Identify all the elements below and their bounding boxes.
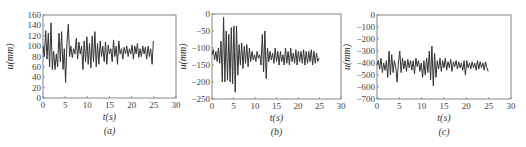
y-tick-label: −300 — [356, 46, 375, 56]
x-tick-label: 25 — [484, 101, 494, 111]
data-series-line — [212, 17, 319, 92]
x-tick-label: 0 — [375, 101, 380, 111]
y-axis-label: u(mm) — [341, 43, 353, 70]
y-tick-label: −150 — [191, 60, 210, 70]
x-tick-label: 15 — [440, 101, 450, 111]
x-axis-label: t(s) — [103, 111, 117, 123]
chart-panel-a: 051015202530020406080100120140160t(s)u(m… — [4, 10, 181, 137]
x-axis-label: t(s) — [437, 112, 451, 124]
y-tick-label: −100 — [191, 43, 210, 53]
data-series-line — [43, 23, 153, 83]
y-tick-label: 140 — [28, 20, 42, 30]
y-tick-label: 40 — [32, 72, 42, 82]
y-axis-label: u(mm) — [4, 43, 16, 70]
y-tick-label: 0 — [206, 9, 211, 19]
y-tick-label: 100 — [28, 41, 42, 51]
x-tick-label: 25 — [149, 100, 159, 110]
x-tick-label: 30 — [507, 101, 517, 111]
y-tick-label: −700 — [356, 94, 375, 104]
x-tick-label: 5 — [397, 101, 402, 111]
panel-caption: (b) — [271, 126, 283, 138]
x-tick-label: 10 — [251, 101, 261, 111]
panel-caption: (c) — [438, 126, 450, 138]
y-tick-label: 20 — [32, 83, 42, 93]
y-tick-label: −50 — [196, 26, 211, 36]
chart-panel-b: 0510152025300−50−100−150−200−250t(s)u(mm… — [177, 9, 346, 138]
x-tick-label: 10 — [83, 100, 93, 110]
chart-panel-c: 0510152025300−100−200−300−400−500−600−70… — [341, 10, 516, 138]
panel-caption: (a) — [104, 125, 116, 137]
x-tick-label: 30 — [172, 100, 182, 110]
y-tick-label: −500 — [356, 70, 375, 80]
y-tick-label: −100 — [356, 22, 375, 32]
x-tick-label: 0 — [41, 100, 46, 110]
y-tick-label: −200 — [356, 34, 375, 44]
x-tick-label: 20 — [462, 101, 472, 111]
y-tick-label: 120 — [28, 31, 42, 41]
x-tick-label: 30 — [337, 101, 347, 111]
y-tick-label: −200 — [191, 77, 210, 87]
y-tick-label: 0 — [37, 93, 42, 103]
x-tick-label: 15 — [272, 101, 282, 111]
y-tick-label: −600 — [356, 82, 375, 92]
y-tick-label: −400 — [356, 58, 375, 68]
x-tick-label: 20 — [127, 100, 137, 110]
figure-canvas: 051015202530020406080100120140160t(s)u(m… — [0, 0, 526, 147]
y-tick-label: 0 — [371, 10, 376, 20]
x-tick-label: 10 — [417, 101, 427, 111]
x-tick-label: 15 — [105, 100, 115, 110]
y-axis-label: u(mm) — [177, 43, 189, 70]
x-tick-label: 0 — [210, 101, 215, 111]
x-axis-label: t(s) — [270, 112, 284, 124]
plot-frame — [377, 15, 511, 99]
data-series-line — [377, 46, 488, 86]
x-tick-label: 20 — [294, 101, 304, 111]
y-tick-label: 160 — [28, 10, 42, 20]
y-tick-label: 80 — [32, 52, 42, 62]
y-tick-label: −250 — [191, 94, 210, 104]
x-tick-label: 5 — [231, 101, 236, 111]
y-tick-label: 60 — [32, 62, 42, 72]
x-tick-label: 5 — [63, 100, 68, 110]
x-tick-label: 25 — [315, 101, 325, 111]
